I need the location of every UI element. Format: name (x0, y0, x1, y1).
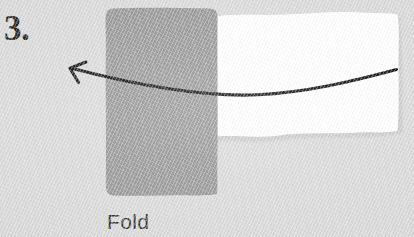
folded-gray-paper-flap (106, 8, 218, 196)
fold-caption-label: Fold (107, 210, 149, 234)
figure-canvas: 3. Fold (0, 0, 414, 237)
fold-diagram-illustration (0, 0, 414, 237)
white-paper-sheet (215, 12, 399, 137)
step-number: 3. (4, 10, 29, 48)
